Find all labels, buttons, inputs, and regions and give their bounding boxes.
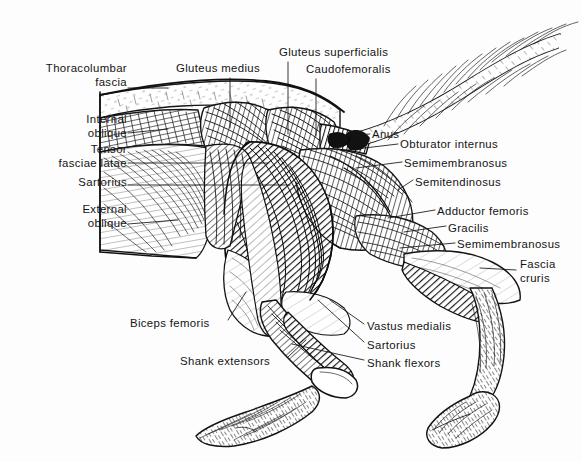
- label-text-line2: oblique: [88, 217, 127, 229]
- label-obturator-internus: Obturator internus: [400, 138, 518, 152]
- label-text-line1: External: [82, 203, 127, 215]
- label-external-oblique: Externaloblique: [38, 203, 127, 230]
- label-tensor-fasciae-latae: Tensorfasciae latae: [30, 143, 127, 170]
- label-text-line1: Tensor: [91, 143, 127, 155]
- label-text-line1: Thoracolumbar: [46, 62, 127, 74]
- label-text-line1: Vastus medialis: [367, 320, 451, 332]
- label-text-line1: Biceps femoris: [130, 317, 210, 329]
- label-fascia-cruris: Fasciacruris: [520, 258, 575, 285]
- label-text-line2: cruris: [520, 272, 550, 284]
- label-text-line1: Semimembranosus: [404, 157, 507, 169]
- label-semimembranosus-lower: Semimembranosus: [457, 238, 577, 252]
- label-sartorius-lower: Sartorius: [367, 339, 432, 353]
- label-text-line1: Caudofemoralis: [306, 63, 391, 75]
- label-text-line1: Adductor femoris: [437, 205, 529, 217]
- label-text-line2: fasciae latae: [58, 157, 127, 169]
- label-text-line1: Obturator internus: [400, 138, 498, 150]
- label-text-line1: Gluteus medius: [176, 62, 260, 74]
- label-text-line1: Internal: [86, 113, 127, 125]
- label-text-line1: Semitendinosus: [415, 176, 501, 188]
- label-shank-extensors: Shank extensors: [180, 355, 286, 369]
- label-text-line2: fascia: [95, 76, 127, 88]
- label-text-line1: Fascia: [520, 258, 556, 270]
- anatomical-plate: ThoracolumbarfasciaGluteus mediusGluteus…: [0, 0, 582, 462]
- label-vastus-medialis: Vastus medialis: [367, 320, 468, 334]
- rear-paw-right: [427, 392, 500, 448]
- label-thoracolumbar-fascia: Thoracolumbarfascia: [22, 62, 127, 89]
- label-text-line1: Semimembranosus: [457, 238, 560, 250]
- rear-paw-left: [196, 386, 320, 447]
- label-shank-flexors: Shank flexors: [367, 357, 455, 371]
- label-gracilis: Gracilis: [448, 222, 503, 236]
- label-text-line2: oblique: [88, 127, 127, 139]
- label-text-line1: Shank extensors: [180, 355, 270, 367]
- label-internal-oblique: Internaloblique: [38, 113, 127, 140]
- label-biceps-femoris: Biceps femoris: [130, 317, 226, 331]
- label-gluteus-medius: Gluteus medius: [176, 62, 286, 76]
- label-text-line1: Gluteus superficialis: [279, 46, 388, 58]
- label-text-line1: Gracilis: [448, 222, 489, 234]
- label-text-line1: Sartorius: [367, 339, 416, 351]
- label-text-line1: Shank flexors: [367, 357, 441, 369]
- label-text-line1: Anus: [372, 128, 399, 140]
- label-caudofemoralis: Caudofemoralis: [306, 63, 406, 77]
- label-gluteus-superficialis: Gluteus superficialis: [279, 46, 404, 60]
- label-sartorius-upper: Sartorius: [44, 176, 127, 190]
- label-text-line1: Sartorius: [78, 176, 127, 188]
- label-semitendinosus: Semitendinosus: [415, 176, 519, 190]
- label-adductor-femoris: Adductor femoris: [437, 205, 550, 219]
- label-semimembranosus-upper: Semimembranosus: [404, 157, 524, 171]
